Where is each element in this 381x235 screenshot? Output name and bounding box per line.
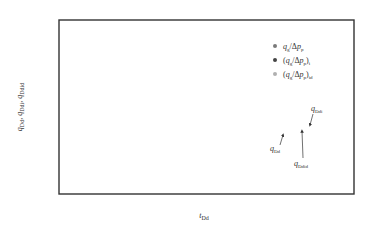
annotation-qdd-arrow [280, 135, 283, 145]
annotations: qDdi qDd qDdid [270, 104, 323, 169]
legend-label-qg-i: (qg/Δpp)i [283, 56, 311, 66]
plot-frame [59, 20, 354, 194]
annotation-qddid: qDdid [294, 159, 309, 169]
legend-marker-qg-i [273, 58, 277, 62]
annotation-qddi: qDdi [311, 104, 323, 114]
legend-label-qg: qg/Δpp [283, 42, 304, 52]
legend-marker-qg [273, 44, 277, 48]
legend-label-qg-id: (qg/Δpp)id [283, 70, 313, 80]
x-axis-label: tDd [199, 211, 209, 221]
y-axis-label: qDd, qDdi, qDdid [15, 83, 25, 131]
annotation-qddi-arrow [310, 114, 313, 125]
annotation-qddid-arrow [302, 131, 303, 158]
annotation-qdd: qDd [270, 144, 281, 154]
legend-marker-qg-id [273, 72, 277, 76]
legend: qg/Δpp (qg/Δpp)i (qg/Δpp)id [273, 42, 313, 80]
type-curve-chart: tDd qDd, qDdi, qDdid qg/Δpp (qg/Δpp)i (q… [0, 0, 381, 235]
